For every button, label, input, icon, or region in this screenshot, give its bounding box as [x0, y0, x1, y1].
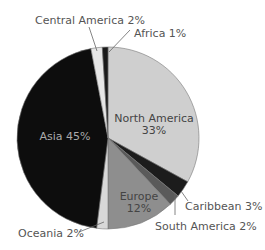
label-asia: Asia 45% — [40, 130, 91, 143]
leader-central-america — [89, 27, 97, 51]
pie-chart: Central America 2% Africa 1% North Ameri… — [0, 0, 265, 250]
label-caribbean: Caribbean 3% — [185, 200, 262, 213]
label-central-america: Central America 2% — [35, 14, 145, 27]
label-europe-pct: 12% — [127, 202, 151, 215]
label-south-america: South America 2% — [155, 220, 257, 233]
label-oceania: Oceania 2% — [18, 227, 84, 240]
label-africa: Africa 1% — [134, 27, 186, 40]
label-north-america-pct: 33% — [142, 124, 166, 137]
